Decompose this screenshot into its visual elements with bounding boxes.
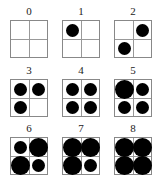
- panel-label: 3: [10, 65, 48, 76]
- dot-icon-bottom-right: [32, 159, 45, 172]
- dot-icon-bottom-right: [133, 156, 152, 175]
- two-by-two-grid: [114, 20, 152, 58]
- dot-icon-bottom-left: [115, 156, 134, 175]
- dot-icon-top-right: [136, 83, 149, 96]
- dot-icon-bottom-left: [118, 101, 131, 114]
- dot-icon-bottom-left: [118, 42, 131, 55]
- dot-icon-top-left: [66, 24, 79, 37]
- two-by-two-grid: [114, 137, 152, 175]
- two-by-two-grid: [62, 137, 100, 175]
- dot-icon-bottom-left: [11, 156, 30, 175]
- dot-icon-top-left: [14, 83, 27, 96]
- dot-icon-top-right: [29, 138, 48, 157]
- dot-icon-top-right: [81, 138, 100, 157]
- dot-icon-top-left: [115, 80, 134, 99]
- panel-label: 5: [114, 65, 152, 76]
- dot-icon-top-right: [32, 83, 45, 96]
- two-by-two-grid: [10, 20, 48, 58]
- grid-divider-horizontal: [63, 98, 99, 99]
- dot-icon-bottom-left: [63, 156, 82, 175]
- dot-icon-top-left: [14, 141, 27, 154]
- two-by-two-grid: [10, 79, 48, 117]
- dot-icon-bottom-right: [84, 159, 97, 172]
- dot-icon-top-right: [133, 138, 152, 157]
- grid-divider-horizontal: [115, 39, 151, 40]
- two-by-two-grid: [114, 79, 152, 117]
- panel-label: 8: [114, 123, 152, 134]
- panel-label: 6: [10, 123, 48, 134]
- two-by-two-grid: [62, 79, 100, 117]
- panel-label: 0: [10, 6, 48, 17]
- grid-divider-horizontal: [11, 39, 47, 40]
- dot-icon-top-left: [115, 138, 134, 157]
- dot-icon-top-left: [63, 138, 82, 157]
- dot-icon-top-right: [84, 83, 97, 96]
- panel-label: 4: [62, 65, 100, 76]
- panel-label: 7: [62, 123, 100, 134]
- dot-icon-bottom-left: [14, 101, 27, 114]
- dot-icon-top-right: [136, 24, 149, 37]
- two-by-two-grid: [10, 137, 48, 175]
- dot-icon-top-left: [66, 83, 79, 96]
- dot-icon-bottom-left: [66, 101, 79, 114]
- panel-label: 2: [114, 6, 152, 17]
- grid-divider-horizontal: [11, 98, 47, 99]
- panel-label: 1: [62, 6, 100, 17]
- dot-icon-bottom-right: [84, 101, 97, 114]
- grid-divider-horizontal: [63, 39, 99, 40]
- dot-icon-bottom-right: [136, 101, 149, 114]
- two-by-two-grid: [62, 20, 100, 58]
